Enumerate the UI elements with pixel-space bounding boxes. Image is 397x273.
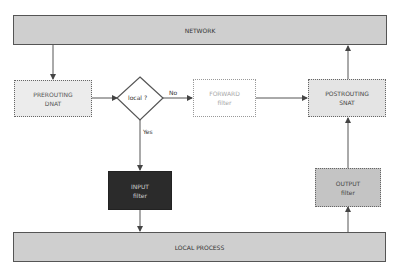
- postrouting-title: POSTROUTING: [325, 89, 369, 98]
- network-label: NETWORK: [185, 27, 216, 34]
- input-title: INPUT: [131, 182, 149, 191]
- local-process-bar: LOCAL PROCESS: [13, 232, 386, 262]
- prerouting-title: PREROUTING: [33, 90, 72, 99]
- forward-subtitle: filter: [218, 98, 232, 107]
- decision-label: local ?: [128, 94, 147, 101]
- output-subtitle: filter: [341, 188, 355, 197]
- no-edge-label: No: [169, 89, 177, 96]
- forward-node: FORWARD filter: [193, 79, 256, 117]
- output-node: OUTPUT filter: [315, 168, 381, 207]
- prerouting-node: PREROUTING DNAT: [14, 80, 92, 117]
- network-bar: NETWORK: [13, 15, 387, 45]
- yes-edge-label: Yes: [143, 128, 153, 135]
- postrouting-node: POSTROUTING SNAT: [308, 79, 386, 117]
- output-title: OUTPUT: [336, 179, 360, 188]
- postrouting-subtitle: SNAT: [339, 98, 355, 107]
- input-subtitle: filter: [133, 191, 147, 200]
- input-node: INPUT filter: [108, 171, 172, 210]
- prerouting-subtitle: DNAT: [45, 99, 61, 108]
- forward-title: FORWARD: [209, 89, 240, 98]
- local-process-label: LOCAL PROCESS: [175, 244, 225, 251]
